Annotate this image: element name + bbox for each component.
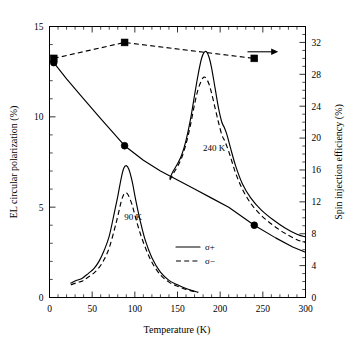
axis-arrow: [247, 49, 278, 55]
y2-tick-label: 20: [312, 133, 322, 143]
annotation-layer: 240 K90 K: [124, 143, 226, 222]
x-tick-label: 200: [213, 304, 228, 314]
y-tick-label: 5: [39, 203, 44, 213]
y-axis-title: EL circular polarization (%): [8, 106, 20, 219]
y-axis-ticks: [50, 27, 56, 298]
chart-legend: σ+σ−: [176, 242, 215, 266]
y2-tick-label: 16: [312, 165, 322, 175]
x-tick-label: 250: [256, 304, 271, 314]
x-tick-label: 0: [47, 304, 52, 314]
y-tick-label: 0: [39, 293, 44, 303]
x-tick-label: 150: [170, 304, 185, 314]
y2-axis-title: Spin injection efficiency (%): [333, 104, 345, 220]
y2-tick-label: 0: [312, 293, 317, 303]
y-tick-label: 10: [34, 112, 44, 122]
peak-label-90k: 90 K: [124, 212, 142, 222]
y2-axis-tick-labels: 048121620242832: [312, 38, 322, 303]
y2-tick-label: 28: [312, 70, 322, 80]
x-axis-title: Temperature (K): [144, 324, 211, 336]
peak-label-240k: 240 K: [203, 143, 226, 153]
marker-square: [251, 55, 258, 62]
marker-circle: [50, 59, 57, 66]
y2-tick-label: 4: [312, 261, 317, 271]
y2-axis-ticks: [300, 27, 306, 298]
series-el-circular-polarization: [54, 63, 306, 253]
marker-square: [121, 39, 128, 46]
marker-circle: [121, 142, 128, 149]
x-tick-label: 100: [128, 304, 143, 314]
y2-tick-label: 24: [312, 102, 322, 112]
y-tick-label: 15: [34, 22, 44, 32]
y-axis-tick-labels: 051015: [34, 22, 44, 303]
y2-tick-label: 32: [312, 38, 322, 48]
y2-tick-label: 8: [312, 229, 317, 239]
x-axis-ticks: [50, 27, 306, 298]
series-spectrum-240k-sigma-minus: [170, 77, 306, 242]
series-spectrum-90k-sigma-plus: [71, 166, 198, 292]
legend-label-sigma-plus: σ+: [205, 242, 215, 252]
chart-figure: 050100150200250300 051015 04812162024283…: [0, 0, 356, 344]
data-series-layer: [54, 42, 306, 292]
series-spectrum-240k-sigma-plus: [170, 51, 306, 237]
x-tick-label: 50: [87, 304, 97, 314]
x-axis-tick-labels: 050100150200250300: [47, 304, 313, 314]
arrow-head: [271, 49, 278, 55]
legend-label-sigma-minus: σ−: [205, 256, 215, 266]
chart-canvas: 050100150200250300 051015 04812162024283…: [0, 0, 356, 344]
plot-frame: [50, 27, 306, 298]
x-tick-label: 300: [298, 304, 313, 314]
marker-circle: [251, 222, 258, 229]
y2-tick-label: 12: [312, 197, 322, 207]
series-spectrum-90k-sigma-minus: [71, 193, 198, 293]
series-spin-injection-efficiency: [54, 42, 255, 58]
